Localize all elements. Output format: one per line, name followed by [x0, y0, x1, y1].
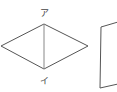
partial-quadrilateral [100, 22, 117, 88]
diagram-canvas: ア イ [0, 0, 117, 92]
partial-quadrilateral-outline [100, 22, 117, 88]
rhombus [1, 24, 88, 69]
label-bottom: イ [40, 76, 49, 86]
label-top: ア [40, 8, 49, 18]
